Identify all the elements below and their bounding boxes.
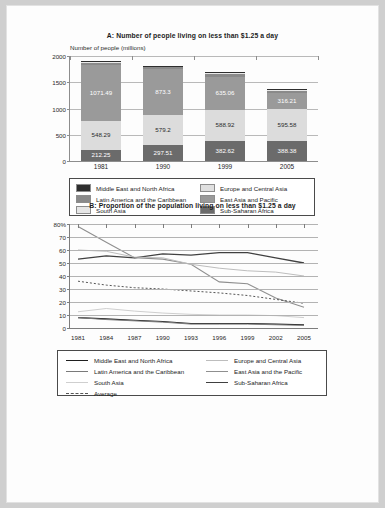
legend-item[interactable]: Sub-Saharan Africa: [206, 377, 302, 387]
chart-page: A: Number of people living on less than …: [7, 6, 378, 502]
bar-value-label: 635.06: [216, 90, 235, 96]
y-axis-tick: [67, 328, 70, 329]
x-axis-tick: [304, 224, 305, 228]
panel-b-line-chart: B: Proportion of the population living o…: [7, 202, 378, 502]
legend-item[interactable]: Europe and Central Asia: [206, 355, 302, 365]
x-axis-tick-label: 1999: [218, 163, 232, 170]
legend-item[interactable]: Middle East and North Africa: [66, 355, 184, 365]
x-axis-tick-label: 1993: [184, 334, 198, 341]
legend-swatch: [76, 184, 91, 192]
legend-label: Middle East and North Africa: [96, 185, 174, 192]
line-series: [78, 309, 304, 318]
legend-swatch: [200, 184, 215, 192]
bar-stack[interactable]: 388.38595.58316.21: [267, 89, 307, 161]
legend-label: Latin America and the Caribbean: [94, 368, 184, 375]
x-axis-tick-label: 2002: [269, 334, 283, 341]
bar-segment: [205, 74, 245, 77]
bar-segment: 382.62: [205, 141, 245, 161]
panel-a-title: A: Number of people living on less than …: [7, 32, 378, 39]
x-axis-tick-label: 1981: [94, 163, 108, 170]
bar-value-label: 588.92: [216, 122, 235, 128]
x-axis-tick: [191, 224, 192, 228]
x-axis-tick-label: 1981: [71, 334, 85, 341]
x-axis-tick: [78, 224, 79, 228]
legend-label: Europe and Central Asia: [234, 357, 301, 364]
line-series: [78, 281, 304, 303]
x-axis-tick-label: 2005: [280, 163, 294, 170]
y-axis-tick: [67, 237, 70, 238]
legend-item[interactable]: South Asia: [66, 377, 184, 387]
bar-value-label: 1071.49: [90, 90, 112, 96]
x-axis-tick: [106, 224, 107, 228]
bar-segment: [205, 73, 245, 74]
legend-line-sample: [66, 360, 88, 361]
legend-line-sample: [206, 371, 228, 372]
x-axis-tick: [135, 224, 136, 228]
y-axis-tick: [67, 135, 70, 136]
x-axis-tick: [194, 56, 195, 60]
bar-value-label: 212.25: [92, 152, 111, 158]
gridline: [70, 315, 318, 316]
legend-item[interactable]: Europe and Central Asia: [200, 183, 287, 193]
y-axis-tick-label: 40: [59, 273, 66, 280]
bar-value-label: 595.58: [278, 122, 297, 128]
bar-segment: 388.38: [267, 141, 307, 161]
gridline: [70, 302, 318, 303]
y-axis-tick-label: 80%: [54, 221, 66, 228]
bar-value-label: 548.29: [92, 132, 111, 138]
legend-column: Europe and Central AsiaEast Asia and the…: [206, 355, 302, 388]
x-axis-tick: [248, 224, 249, 228]
y-axis-tick: [67, 109, 70, 110]
legend-item[interactable]: Average: [66, 388, 184, 398]
gridline: [70, 289, 318, 290]
x-axis-tick-label: 1990: [156, 163, 170, 170]
bar-segment: 548.29: [81, 121, 121, 150]
bar-segment: [267, 90, 307, 91]
legend-label: South Asia: [94, 379, 124, 386]
gridline: [70, 276, 318, 277]
legend-item[interactable]: Middle East and North Africa: [76, 183, 186, 193]
panel-b-title: B: Proportion of the population living o…: [7, 202, 378, 209]
legend-line-sample: [66, 382, 88, 383]
bar-segment: [267, 89, 307, 90]
bar-segment: [81, 63, 121, 65]
bar-value-label: 297.51: [154, 150, 173, 156]
x-axis-tick: [219, 224, 220, 228]
bar-stack[interactable]: 297.51579.2873.3: [143, 66, 183, 161]
legend-line-sample: [66, 393, 88, 394]
x-axis-tick: [70, 56, 71, 60]
bar-stack[interactable]: 212.25548.291071.49: [81, 61, 121, 161]
bar-value-label: 388.38: [278, 148, 297, 154]
legend-item[interactable]: East Asia and the Pacific: [206, 366, 302, 376]
bar-stack[interactable]: 382.62588.92635.06: [205, 72, 245, 161]
bar-value-label: 579.2: [155, 127, 170, 133]
x-axis-tick: [132, 56, 133, 60]
y-axis-tick: [67, 315, 70, 316]
legend-item[interactable]: Latin America and the Caribbean: [66, 366, 184, 376]
y-axis-tick-label: 50: [59, 260, 66, 267]
legend-label: Europe and Central Asia: [220, 185, 287, 192]
y-axis-tick-label: 10: [59, 312, 66, 319]
bar-segment: [267, 90, 307, 92]
y-axis-tick: [67, 224, 70, 225]
y-axis-tick-label: 20: [59, 299, 66, 306]
bar-segment: [143, 66, 183, 67]
bar-value-label: 316.21: [278, 98, 297, 104]
y-axis-tick-label: 500: [56, 131, 66, 138]
x-axis-tick: [318, 56, 319, 60]
x-axis-tick-label: 1987: [128, 334, 142, 341]
gridline: [70, 237, 318, 238]
bar-segment: [143, 67, 183, 69]
panel-a-y-axis-label: Number of people (millions): [70, 44, 146, 51]
panel-b-plot-area: 01020304050607080%1981198419871990199319…: [69, 224, 318, 329]
y-axis-tick-label: 70: [59, 234, 66, 241]
x-axis-tick-label: 1990: [156, 334, 170, 341]
y-axis-tick: [67, 289, 70, 290]
legend-label: East Asia and the Pacific: [234, 368, 302, 375]
x-axis-tick-label: 1984: [99, 334, 113, 341]
bar-value-label: 382.62: [216, 148, 235, 154]
x-axis-tick: [163, 224, 164, 228]
x-axis-tick-label: 2005: [297, 334, 311, 341]
bar-segment: 1071.49: [81, 65, 121, 121]
panel-b-legend: Middle East and North AfricaLatin Americ…: [57, 350, 327, 396]
